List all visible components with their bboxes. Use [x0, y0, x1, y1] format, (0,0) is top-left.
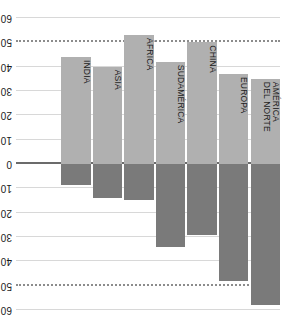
bar-category-label: SUDAMÉRICA — [156, 62, 185, 164]
bar-category-label: CHINA — [188, 42, 217, 164]
bar-positive — [188, 164, 217, 235]
ytick-label: 60g — [0, 305, 12, 316]
bar-group: AMÉRICA DEL NORTE — [251, 18, 280, 310]
bar-category-label: AMÉRICA DEL NORTE — [251, 79, 280, 164]
bar-group: EUROPA — [219, 18, 248, 310]
bar-group: CHINA — [188, 18, 217, 310]
bar-category-label: ASIA — [93, 67, 122, 164]
bar-positive — [124, 164, 153, 201]
ytick-label: 20 — [0, 110, 12, 121]
bar-group: ÁFRICA — [124, 18, 153, 310]
bar-category-label: INDIA — [61, 57, 90, 164]
bar-positive — [219, 164, 248, 281]
ytick-label: 30 — [0, 232, 12, 243]
plot-area: 60g50403020100102030405060g AMÉRICA DEL … — [59, 18, 280, 310]
ytick-label: 10 — [0, 183, 12, 194]
ytick-label: 10 — [0, 134, 12, 145]
bar-positive — [93, 164, 122, 198]
ytick-label: 40 — [0, 61, 12, 72]
bar-category-label: EUROPA — [219, 74, 248, 164]
bar-group: SUDAMÉRICA — [156, 18, 185, 310]
ytick-label: 50 — [0, 280, 12, 291]
bar-group: ASIA — [93, 18, 122, 310]
bar-positive — [156, 164, 185, 247]
rotated-bar-chart: 60g50403020100102030405060g AMÉRICA DEL … — [0, 0, 296, 328]
ytick-label: 40 — [0, 256, 12, 267]
ytick-label: 20 — [0, 207, 12, 218]
bar-positive — [61, 164, 90, 185]
bar-positive — [251, 164, 280, 305]
bar-group: INDIA — [61, 18, 90, 310]
ytick-label: 30 — [0, 86, 12, 97]
bar-category-label: ÁFRICA — [124, 35, 153, 164]
ytick-label: 60g — [0, 13, 12, 24]
ytick-label: 50 — [0, 37, 12, 48]
ytick-label: 0 — [0, 159, 12, 170]
